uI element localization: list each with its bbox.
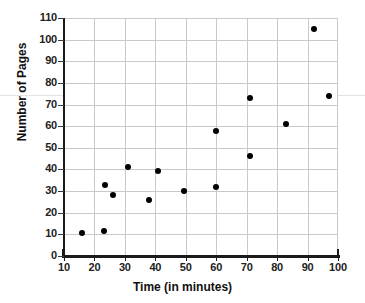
y-tick-mark — [58, 256, 64, 257]
gridline-horizontal — [64, 126, 338, 127]
x-axis-line — [62, 255, 340, 258]
gridline-horizontal — [64, 169, 338, 170]
y-tick-mark — [58, 213, 64, 214]
data-point — [146, 197, 152, 203]
gridline-horizontal — [64, 105, 338, 106]
x-axis-title: Time (in minutes) — [0, 280, 365, 294]
plot-border-right — [337, 18, 338, 256]
data-point — [213, 184, 219, 190]
gridline-horizontal — [64, 61, 338, 62]
y-tick-label: 40 — [17, 163, 57, 174]
data-point — [102, 182, 108, 188]
x-tick-label: 100 — [318, 261, 358, 273]
gridline-horizontal — [64, 148, 338, 149]
gridline-vertical — [277, 18, 278, 256]
gridline-vertical — [125, 18, 126, 256]
y-tick-mark — [58, 18, 64, 19]
y-axis-title: Number of Pages — [15, 22, 29, 162]
gridline-vertical — [155, 18, 156, 256]
gridline-vertical — [216, 18, 217, 256]
data-point — [155, 168, 161, 174]
gridline-horizontal — [64, 40, 338, 41]
data-point — [101, 228, 107, 234]
gridline-horizontal — [64, 18, 338, 19]
data-point — [213, 128, 219, 134]
data-point — [247, 95, 253, 101]
data-point — [311, 26, 317, 32]
y-tick-label: 0 — [17, 250, 57, 261]
gridline-horizontal — [64, 234, 338, 235]
y-tick-mark — [58, 83, 64, 84]
y-tick-mark — [58, 61, 64, 62]
y-tick-mark — [58, 148, 64, 149]
plot-area — [64, 18, 338, 256]
y-tick-mark — [58, 234, 64, 235]
gridline-horizontal — [64, 83, 338, 84]
gridline-vertical — [94, 18, 95, 256]
gridline-vertical — [308, 18, 309, 256]
y-tick-mark — [58, 105, 64, 106]
y-axis-line — [63, 18, 65, 258]
y-tick-mark — [58, 169, 64, 170]
gridline-horizontal — [64, 213, 338, 214]
y-tick-mark — [58, 40, 64, 41]
gridline-horizontal — [64, 191, 338, 192]
gridline-vertical — [247, 18, 248, 256]
y-tick-mark — [58, 191, 64, 192]
scatter-chart: 102030405060708090100 010203040506070809… — [0, 0, 365, 303]
y-tick-label: 20 — [17, 207, 57, 218]
data-point — [326, 93, 332, 99]
gridline-vertical — [186, 18, 187, 256]
y-tick-mark — [58, 126, 64, 127]
y-tick-label: 10 — [17, 228, 57, 239]
y-tick-label: 30 — [17, 185, 57, 196]
